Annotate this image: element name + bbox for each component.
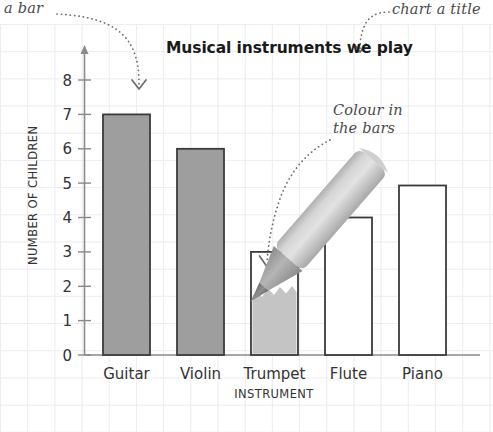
y-tick-label-1: 1 (62, 312, 72, 330)
x-label-flute: Flute (330, 365, 367, 383)
x-axis-category-labels: Guitar Violin Trumpet Flute Piano (103, 365, 443, 383)
y-axis (81, 45, 89, 355)
annotation-chart-a-title: chart a title (392, 1, 481, 17)
annotation-colour-in-line2: the bars (333, 120, 395, 136)
y-tick-label-4: 4 (62, 209, 72, 227)
bar-piano[interactable] (399, 186, 446, 356)
y-axis-arrow-icon (81, 45, 89, 54)
y-tick-label-7: 7 (62, 106, 72, 124)
y-tick-label-5: 5 (62, 175, 72, 193)
y-axis-title: NUMBER OF CHILDREN (26, 126, 40, 265)
y-tick-label-8: 8 (62, 72, 72, 90)
bar-chart-worksheet: a bar chart a title Musical instruments … (0, 0, 493, 432)
y-axis-tick-labels: 0 1 2 3 4 5 6 7 8 (62, 72, 72, 365)
y-tick-label-3: 3 (62, 243, 72, 261)
bar-violin[interactable] (177, 149, 224, 355)
y-tick-label-0: 0 (62, 347, 72, 365)
x-label-guitar: Guitar (103, 365, 150, 383)
x-label-piano: Piano (402, 365, 443, 383)
bar-guitar[interactable] (103, 114, 150, 355)
y-tick-label-2: 2 (62, 278, 72, 296)
y-tick-label-6: 6 (62, 140, 72, 158)
x-axis-title: INSTRUMENT (234, 387, 314, 401)
chart-title: Musical instruments we play (166, 39, 413, 57)
annotation-a-bar: a bar (4, 0, 44, 16)
bar-flute[interactable] (325, 218, 372, 356)
x-label-violin: Violin (180, 365, 221, 383)
annotation-colour-in-line1: Colour in (333, 102, 403, 118)
x-label-trumpet: Trumpet (243, 365, 306, 383)
